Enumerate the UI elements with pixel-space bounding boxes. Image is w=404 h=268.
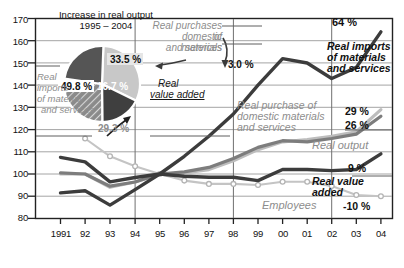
end-label-64: 64 % (332, 17, 357, 29)
x-tick-04: 04 (369, 228, 393, 239)
callout-imports-line2: imports (37, 83, 68, 93)
x-tick-98: 98 (221, 228, 245, 239)
callout-value-added-line2: value added (150, 90, 205, 101)
pie-value-16: 16.7 % (97, 81, 128, 92)
x-axis-ticks (61, 219, 381, 225)
series-label-real-output: Real output (312, 140, 368, 152)
x-tick-01: 01 (295, 228, 319, 239)
x-tick-92: 92 (73, 228, 97, 239)
chart-root: 170 160 150 140 130 120 110 100 90 80 (0, 0, 404, 268)
series-label-employees: Employees (262, 200, 316, 212)
series-label-purchase-3: and services (237, 122, 296, 133)
callout-imports-line4: and services (41, 105, 94, 115)
callout-imports-line1: Real (37, 72, 57, 82)
end-label-minus10: -10 % (343, 201, 370, 212)
x-tick-97: 97 (197, 228, 221, 239)
x-tick-95: 95 (148, 228, 172, 239)
callout-3pct: 3.0 % (228, 60, 254, 71)
end-label-26: 26 % (345, 120, 369, 131)
x-tick-99: 99 (246, 228, 270, 239)
series-label-imports-3: and services (327, 63, 391, 74)
y-axis-ticks (28, 19, 35, 219)
series-label-value-added-2: added (312, 187, 343, 198)
x-tick-94: 94 (123, 228, 147, 239)
callout-29-3pct: 29.3 % (98, 124, 129, 135)
callout-imports-line3: of material (37, 94, 81, 104)
x-tick-02: 02 (320, 228, 344, 239)
pie-title-line1: Increase in real output (42, 9, 170, 20)
end-label-29: 29 % (345, 106, 369, 117)
x-tick-00: 00 (271, 228, 295, 239)
end-label-9: 9 % (348, 163, 366, 174)
x-tick-96: 96 (172, 228, 196, 239)
x-tick-03: 03 (344, 228, 368, 239)
callout-purchases-line3: and services (142, 43, 222, 54)
x-tick-93: 93 (98, 228, 122, 239)
pie-value-33: 33.5 % (110, 54, 141, 65)
